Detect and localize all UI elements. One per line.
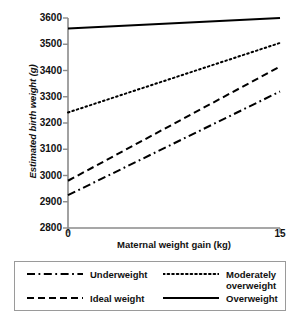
chart-legend: UnderweightModerately overweightIdeal we… (14, 261, 286, 311)
legend-grid: UnderweightModerately overweightIdeal we… (15, 262, 285, 310)
legend-label: Underweight (90, 269, 148, 281)
legend-label: Ideal weight (90, 293, 144, 305)
legend-label: Overweight (226, 293, 278, 305)
axes-layer (63, 18, 280, 233)
legend-label: Moderately overweight (226, 269, 276, 291)
x-axis-tick-label-right: 15 (270, 229, 290, 239)
plot-area: 280029003000310032003300340035003600 0 1… (0, 0, 302, 252)
legend-line-swatch (27, 269, 83, 279)
legend-item: Moderately overweight (163, 269, 276, 291)
x-axis-title: Maternal weight gain (kg) (68, 239, 280, 250)
series-layer (68, 18, 280, 195)
legend-line-swatch (163, 293, 219, 303)
legend-line-swatch (163, 269, 219, 279)
y-axis-tick-label: 2800 (28, 223, 62, 233)
y-axis-title: Estimated birth weight (g) (27, 27, 38, 217)
series-line-overweight (68, 18, 280, 29)
y-axis-tick-label: 3600 (28, 13, 62, 23)
legend-item: Overweight (163, 293, 278, 305)
series-line-moderately-overweight (68, 43, 280, 113)
series-line-ideal-weight (68, 67, 280, 181)
legend-item: Underweight (27, 269, 148, 281)
birth-weight-line-chart: 280029003000310032003300340035003600 0 1… (0, 0, 302, 326)
legend-item: Ideal weight (27, 293, 144, 305)
legend-line-swatch (27, 293, 83, 303)
series-line-underweight (68, 92, 280, 196)
x-axis-tick-label-left: 0 (58, 229, 78, 239)
